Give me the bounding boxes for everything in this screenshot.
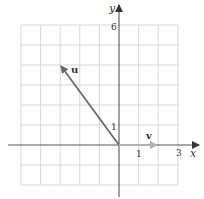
vector-v-label: v	[145, 130, 153, 141]
y-tick-1: 1	[111, 122, 117, 132]
vector-u	[61, 66, 119, 145]
x-axis-label: x	[190, 147, 197, 160]
x-tick-1: 1	[136, 149, 142, 159]
y-axis-label: y	[108, 2, 116, 15]
vector-u-label: u	[71, 64, 78, 75]
vector-diagram: y x 6 1 1 3 u v	[0, 0, 204, 199]
x-tick-3: 3	[176, 148, 182, 158]
grid	[21, 25, 178, 185]
y-tick-6: 6	[111, 22, 117, 32]
